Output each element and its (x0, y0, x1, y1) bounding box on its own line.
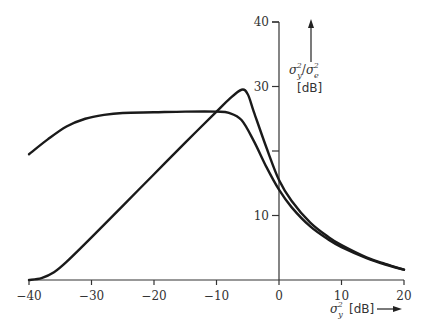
y-tick-label: 40 (254, 15, 269, 29)
svg-text:[dB]: [dB] (297, 81, 322, 95)
x-tick-label: −40 (16, 289, 41, 303)
x-tick-label: 20 (396, 289, 411, 303)
svg-text:σy2/σe2: σy2/σe2 (289, 61, 319, 80)
x-tick-label: −10 (204, 289, 229, 303)
arrow-up-icon (308, 19, 314, 28)
y-tick-label: 30 (254, 80, 269, 94)
svg-text:[dB]: [dB] (349, 302, 374, 316)
arrow-right-icon (393, 306, 402, 312)
series-line (29, 112, 404, 270)
curves (29, 89, 404, 280)
x-tick-label: −30 (79, 289, 104, 303)
x-tick-label: −20 (141, 289, 166, 303)
y-tick-label: 10 (254, 209, 269, 223)
y-axis-label: σy2/σe2 [dB] (289, 19, 322, 95)
x-tick-label: 0 (275, 289, 283, 303)
chart-canvas: −40−30−20−1001020103040 σy2/σe2 [dB] σy2… (0, 0, 429, 335)
svg-text:σy2: σy2 (330, 300, 343, 319)
axes: −40−30−20−1001020103040 (16, 15, 411, 303)
x-axis-label: σy2 [dB] (330, 300, 402, 319)
